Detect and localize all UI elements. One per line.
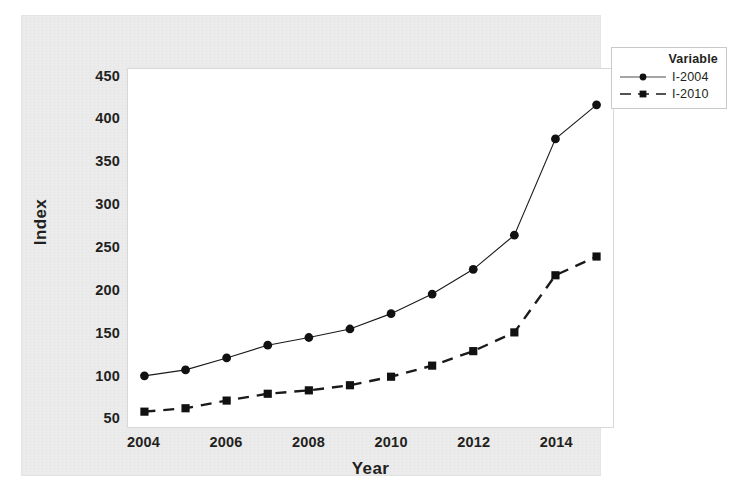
x-axis-tick-label: 2010 — [375, 434, 408, 450]
data-point-i-2004-2013[interactable] — [510, 231, 519, 240]
data-point-i-2004-2004[interactable] — [140, 371, 149, 380]
data-point-i-2010-2007[interactable] — [264, 390, 272, 398]
data-point-i-2010-2014[interactable] — [551, 271, 559, 279]
y-axis-tick-label: 150 — [95, 325, 120, 341]
data-point-i-2010-2010[interactable] — [387, 373, 395, 381]
x-axis-tick-labels: 200420062008201020122014 — [127, 434, 614, 458]
x-axis-tick-label: 2006 — [210, 434, 243, 450]
y-axis-title: Index — [31, 199, 51, 245]
data-point-i-2004-2007[interactable] — [263, 341, 272, 350]
data-point-i-2010-2013[interactable] — [510, 328, 518, 336]
y-axis-tick-label: 450 — [95, 68, 120, 84]
data-point-i-2004-2010[interactable] — [387, 309, 396, 318]
data-point-i-2010-2006[interactable] — [223, 397, 231, 405]
y-axis-tick-label: 100 — [95, 368, 120, 384]
data-point-i-2010-2012[interactable] — [469, 347, 477, 355]
x-axis-title: Year — [127, 459, 614, 479]
x-axis-tick-label: 2004 — [127, 434, 160, 450]
data-point-i-2010-2015[interactable] — [592, 252, 600, 260]
data-point-i-2010-2009[interactable] — [346, 381, 354, 389]
legend-label-i-2004: I-2004 — [668, 70, 709, 84]
y-axis-tick-label: 400 — [95, 110, 120, 126]
plot-svg — [128, 69, 613, 427]
legend-key-dashed-square-icon — [618, 87, 668, 101]
y-axis-tick-labels: 50100150200250300350400450 — [70, 68, 120, 428]
series-line-i-2010 — [144, 257, 596, 412]
data-point-i-2004-2006[interactable] — [222, 354, 231, 363]
x-axis-tick-label: 2012 — [457, 434, 490, 450]
y-axis-tick-label: 350 — [95, 153, 120, 169]
x-axis-tick-label: 2008 — [292, 434, 325, 450]
legend-item-i-2010[interactable]: I-2010 — [618, 85, 720, 102]
plot-area — [127, 68, 614, 428]
data-point-i-2010-2004[interactable] — [140, 408, 148, 416]
data-point-i-2010-2011[interactable] — [428, 362, 436, 370]
data-point-i-2004-2008[interactable] — [304, 333, 313, 342]
legend-key-solid-circle-icon — [618, 70, 668, 84]
data-point-i-2004-2005[interactable] — [181, 366, 190, 375]
data-point-i-2004-2011[interactable] — [428, 290, 437, 299]
y-axis-tick-label: 300 — [95, 196, 120, 212]
legend-item-i-2004[interactable]: I-2004 — [618, 68, 720, 85]
legend-title: Variable — [618, 52, 720, 66]
x-axis-tick-label: 2014 — [540, 434, 573, 450]
y-axis-tick-label: 250 — [95, 239, 120, 255]
figure-panel: Index 50100150200250300350400450 2004200… — [22, 16, 600, 475]
legend-label-i-2010: I-2010 — [668, 87, 709, 101]
y-axis-tick-label: 50 — [103, 410, 120, 426]
data-point-i-2010-2005[interactable] — [181, 404, 189, 412]
data-point-i-2004-2015[interactable] — [592, 100, 601, 109]
legend: Variable I-2004 I-2010 — [611, 47, 727, 109]
data-point-i-2004-2012[interactable] — [469, 265, 478, 274]
data-point-i-2004-2009[interactable] — [346, 325, 355, 334]
series-line-i-2004 — [144, 105, 596, 376]
y-axis-tick-label: 200 — [95, 282, 120, 298]
data-point-i-2010-2008[interactable] — [305, 386, 313, 394]
data-point-i-2004-2014[interactable] — [551, 135, 560, 144]
